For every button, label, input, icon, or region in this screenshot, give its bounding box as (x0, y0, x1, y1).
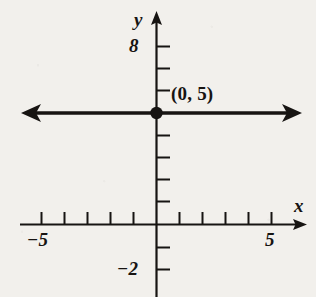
y-axis (151, 11, 162, 297)
point-annotation-0-5: (0, 5) (171, 84, 213, 103)
x-tick-label-5: 5 (265, 230, 275, 249)
y-tick-label--2: −2 (117, 259, 138, 278)
y-axis-ticks (157, 47, 171, 270)
x-axis-label: x (294, 196, 304, 215)
y-axis-label: y (134, 10, 142, 29)
plotted-point-0-5 (150, 107, 162, 119)
x-axis (20, 219, 307, 230)
y-tick-label-8: 8 (129, 36, 139, 55)
x-tick-label--5: −5 (27, 230, 48, 249)
coordinate-plane-figure: y x 8 −2 −5 5 (0, 5) (0, 0, 316, 297)
graph-canvas (0, 0, 316, 297)
